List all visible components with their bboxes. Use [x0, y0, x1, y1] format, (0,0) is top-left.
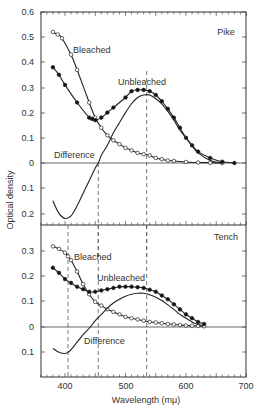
data-point — [112, 286, 116, 290]
tench-bleached-label: Bleached — [74, 252, 112, 262]
data-point — [100, 116, 104, 120]
data-point — [184, 160, 188, 164]
x-tick: 400 — [57, 381, 72, 391]
y-tick: 0.4 — [21, 57, 34, 67]
data-point — [184, 324, 188, 328]
y-tick: 0.1 — [21, 133, 34, 143]
data-point — [112, 139, 116, 143]
data-point — [233, 161, 237, 165]
data-point — [63, 83, 67, 87]
pike-y-tick-labels: 0.6 0.5 0.4 0.3 0.2 0.1 0 0.1 0.2 — [21, 7, 34, 219]
y-tick: 0.2 — [21, 209, 34, 219]
optical-density-chart: 0.6 0.5 0.4 0.3 0.2 0.1 0 0.1 0.2 0.3 0.… — [0, 0, 261, 413]
data-point — [124, 96, 128, 100]
y-tick: 0.5 — [21, 32, 34, 42]
data-point — [63, 277, 67, 281]
y-tick: 0.1 — [21, 296, 34, 306]
y-tick: 0 — [29, 322, 34, 332]
y-tick: 0.2 — [21, 271, 34, 281]
data-point — [190, 316, 194, 320]
data-point — [106, 287, 110, 291]
data-point — [57, 247, 61, 251]
data-point — [112, 106, 116, 110]
data-point — [60, 36, 64, 40]
x-tick-labels: 400 500 600 700 — [57, 381, 253, 391]
x-tick: 600 — [178, 381, 193, 391]
data-point — [93, 300, 97, 304]
data-point — [81, 282, 85, 286]
tench-y-tick-labels: 0.3 0.2 0.1 0 0.1 — [21, 246, 34, 357]
data-point — [112, 310, 116, 314]
data-point — [154, 156, 158, 160]
tench-panel-title: Tench — [214, 232, 238, 242]
data-point — [93, 118, 97, 122]
data-point — [148, 288, 152, 292]
y-tick: 0.2 — [21, 108, 34, 118]
data-point — [154, 93, 158, 97]
data-point — [172, 323, 176, 327]
data-point — [136, 88, 140, 92]
tench-difference-curve — [53, 293, 204, 353]
data-point — [154, 290, 158, 294]
data-point — [166, 322, 170, 326]
data-point — [57, 271, 61, 275]
y-tick: 0 — [29, 158, 34, 168]
data-point — [100, 289, 104, 293]
data-point — [178, 323, 182, 327]
data-point — [69, 281, 73, 285]
data-point — [160, 321, 164, 325]
data-point — [196, 161, 200, 165]
data-point — [178, 308, 182, 312]
data-point — [124, 146, 128, 150]
data-point — [160, 294, 164, 298]
tench-unbleached-label: Unbleached — [97, 273, 145, 283]
data-point — [208, 156, 212, 160]
data-point — [100, 126, 104, 130]
data-point — [124, 285, 128, 289]
data-point — [51, 245, 55, 249]
data-point — [148, 154, 152, 158]
data-point — [130, 285, 134, 289]
data-point — [172, 303, 176, 307]
data-point — [56, 33, 60, 37]
data-point — [160, 157, 164, 161]
data-point — [142, 286, 146, 290]
y-axis-title: Optical density — [5, 170, 15, 230]
data-point — [136, 151, 140, 155]
data-point — [51, 266, 55, 270]
data-point — [87, 101, 91, 105]
pike-difference-label: Difference — [54, 150, 95, 160]
x-tick: 500 — [118, 381, 133, 391]
y-tick: 0.6 — [21, 7, 34, 17]
data-point — [75, 68, 79, 72]
x-tick: 700 — [238, 381, 253, 391]
x-axis-title: Wavelength (mμ) — [112, 395, 180, 405]
data-point — [154, 321, 158, 325]
data-point — [118, 142, 122, 146]
data-point — [136, 318, 140, 322]
data-point — [100, 304, 104, 308]
pike-bleached-label: Bleached — [73, 45, 111, 55]
data-point — [118, 285, 122, 289]
data-point — [118, 313, 122, 317]
data-point — [130, 316, 134, 320]
data-point — [184, 313, 188, 317]
data-point — [63, 251, 67, 255]
data-point — [130, 89, 134, 93]
pike-unbleached-label: Unbleached — [118, 77, 166, 87]
data-point — [172, 159, 176, 163]
data-point — [196, 320, 200, 324]
data-point — [75, 285, 79, 289]
data-point — [142, 319, 146, 323]
tench-difference-label: Difference — [84, 336, 125, 346]
data-point — [142, 88, 146, 92]
data-point — [106, 133, 110, 137]
y-tick: 0.1 — [21, 347, 34, 357]
data-point — [87, 290, 91, 294]
data-point — [69, 258, 73, 262]
data-point — [75, 270, 79, 274]
data-point — [57, 73, 61, 77]
data-point — [51, 65, 55, 69]
data-point — [190, 324, 194, 328]
y-tick: 0.3 — [21, 83, 34, 93]
